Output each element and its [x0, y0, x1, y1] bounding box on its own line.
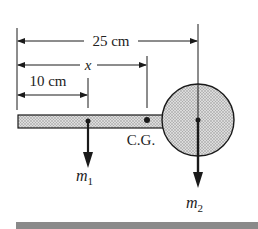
cg-label: C.G. — [127, 132, 155, 148]
m2-force-arrow-head — [193, 172, 203, 188]
m1-label: m1 — [76, 167, 93, 187]
cg-point — [144, 117, 150, 123]
total-dimension-label: 25 cm — [92, 33, 129, 49]
m1-dimension-label: 10 cm — [29, 73, 66, 89]
m1-force-arrow-head — [83, 152, 93, 168]
m2-label: m2 — [186, 194, 203, 214]
lever-diagram: 25 cm x 10 cm C.G. m1 m2 — [0, 0, 258, 229]
cg-dimension-label: x — [84, 57, 92, 73]
bottom-band — [16, 222, 258, 229]
